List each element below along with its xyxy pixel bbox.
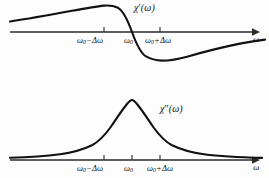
tick-offset: −Δω — [86, 163, 103, 173]
imag-tick-label-upper: ω0+Δω — [147, 163, 173, 173]
tick-subscript: 0 — [130, 39, 133, 45]
tick-offset: −Δω — [86, 35, 103, 45]
imaginary-part-plot: χ″(ω) ω0−Δω ω0 ω0+Δω ω — [0, 89, 269, 178]
real-part-curve — [10, 5, 265, 60]
tick-subscript: 0 — [130, 167, 133, 173]
real-part-curve-label: χ′(ω) — [134, 2, 155, 13]
dispersion-absorption-figure: χ′(ω) ω0−Δω ω0 ω0+Δω ω — [0, 0, 269, 178]
tick-offset: +Δω — [154, 35, 171, 45]
real-tick-label-upper: ω0+Δω — [145, 35, 171, 45]
real-tick-label-center: ω0 — [124, 35, 133, 45]
real-part-svg — [0, 0, 269, 89]
imag-axis-label: ω — [253, 162, 259, 172]
imaginary-part-curve-label: χ″(ω) — [160, 103, 183, 114]
imag-tick-label-lower: ω0−Δω — [77, 163, 103, 173]
imag-tick-label-center: ω0 — [124, 163, 133, 173]
real-part-plot: χ′(ω) ω0−Δω ω0 ω0+Δω ω — [0, 0, 269, 89]
tick-offset: +Δω — [156, 163, 173, 173]
real-arg-symbol: (ω) — [141, 2, 155, 13]
imaginary-part-curve — [10, 100, 262, 158]
real-axis-label: ω — [253, 34, 259, 44]
imaginary-part-svg — [0, 89, 269, 178]
imag-arg-symbol: (ω) — [169, 103, 183, 114]
real-tick-label-lower: ω0−Δω — [77, 35, 103, 45]
